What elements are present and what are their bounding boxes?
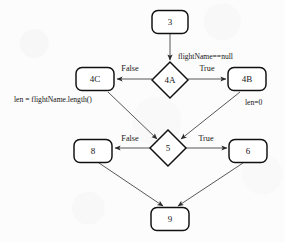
edge-4B-to-5 <box>181 92 240 139</box>
edge-6-to-9 <box>178 163 243 206</box>
node-4B-label: 4B <box>242 74 253 84</box>
edge-label-true-top: True <box>199 64 215 73</box>
edge-4A-to-4B: True <box>188 64 226 79</box>
node-4A[interactable]: 4A <box>152 62 188 98</box>
edge-4A-to-4C: False <box>117 64 152 79</box>
nodes-layer: 3 4A 4C 4B 5 <box>74 11 267 231</box>
node-8-label: 8 <box>91 146 96 156</box>
edge-5-to-8: False <box>115 134 151 148</box>
edge-5-to-6: True <box>185 134 227 148</box>
node-3[interactable]: 3 <box>152 11 188 34</box>
node-5-label: 5 <box>166 143 171 153</box>
edge-4C-to-5 <box>108 92 157 139</box>
flowchart-canvas: False True False True <box>0 0 285 242</box>
node-4C-label: 4C <box>90 74 101 84</box>
edge-line <box>178 163 243 206</box>
edge-label-false-bottom: False <box>121 134 139 143</box>
annotation-len-zero: len=0 <box>245 98 263 107</box>
edge-label-false-top: False <box>121 64 139 73</box>
node-6-label: 6 <box>246 146 251 156</box>
node-3-label: 3 <box>168 17 173 27</box>
annotation-condition-flightname-null: flightName==null <box>178 52 233 61</box>
annotation-len-assignment: len = flightName.length() <box>14 95 92 104</box>
flowchart-svg: False True False True <box>0 0 285 242</box>
node-9-label: 9 <box>168 214 173 224</box>
node-4B[interactable]: 4B <box>228 68 266 91</box>
node-5[interactable]: 5 <box>150 130 186 166</box>
node-8[interactable]: 8 <box>74 140 112 163</box>
node-4A-label: 4A <box>165 75 177 85</box>
node-9[interactable]: 9 <box>151 208 189 231</box>
node-6[interactable]: 6 <box>229 140 267 163</box>
edge-line <box>181 92 240 139</box>
edge-line <box>108 92 157 139</box>
edge-line <box>99 163 163 206</box>
edge-label-true-bottom: True <box>198 134 214 143</box>
edge-8-to-9 <box>99 163 163 206</box>
node-4C[interactable]: 4C <box>76 68 114 91</box>
